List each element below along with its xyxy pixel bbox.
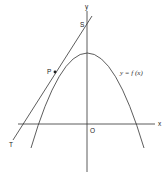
origin-label: O — [90, 127, 95, 134]
tangent-line — [13, 16, 92, 140]
point-p-label: P — [47, 68, 51, 75]
point-s-label: S — [80, 21, 85, 28]
point-t-label: T — [9, 141, 13, 148]
curve-label: y = f (x) — [119, 69, 143, 77]
y-axis-label: y — [85, 3, 89, 11]
point-p-marker — [54, 71, 57, 74]
x-axis-label: x — [158, 120, 162, 127]
graph-diagram: y S P T O x y = f (x) — [0, 0, 167, 178]
